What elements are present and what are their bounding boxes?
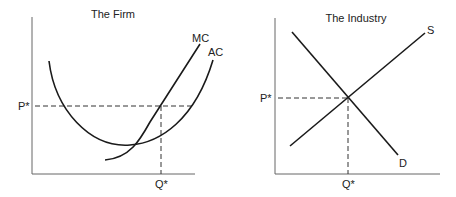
ac-curve bbox=[49, 60, 213, 145]
firm-q-star-label: Q* bbox=[155, 178, 169, 190]
industry-q-star-label: Q* bbox=[342, 178, 356, 190]
industry-panel: The Industry S D P* Q* bbox=[260, 12, 440, 190]
industry-title: The Industry bbox=[325, 12, 387, 24]
firm-title: The Firm bbox=[91, 8, 135, 20]
ac-label: AC bbox=[208, 46, 223, 58]
demand-label: D bbox=[399, 157, 407, 169]
mc-label: MC bbox=[192, 32, 209, 44]
firm-panel: The Firm MC AC P* Q* bbox=[18, 8, 223, 190]
demand-curve bbox=[292, 32, 398, 155]
mc-curve bbox=[105, 44, 200, 160]
diagram: The Firm MC AC P* Q* The Industry S D P*… bbox=[0, 0, 456, 197]
firm-p-star-label: P* bbox=[18, 100, 30, 112]
supply-curve bbox=[290, 33, 425, 146]
supply-label: S bbox=[427, 24, 434, 36]
industry-p-star-label: P* bbox=[260, 92, 272, 104]
